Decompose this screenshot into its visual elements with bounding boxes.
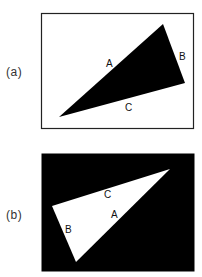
panel-b: (b) C A B: [6, 154, 194, 271]
figure: (a) A B C (b) C A B: [0, 0, 202, 277]
panel-b-edge-label-b: B: [65, 224, 72, 235]
panel-a-edge-label-a: A: [106, 58, 113, 69]
panel-b-edge-label-a: A: [111, 209, 118, 220]
triangle-figure: (a) A B C (b) C A B: [0, 0, 202, 277]
panel-a-label: (a): [6, 65, 22, 79]
panel-a: (a) A B C: [6, 14, 194, 129]
panel-b-edge-label-c: C: [104, 189, 111, 200]
panel-a-edge-label-c: C: [125, 102, 132, 113]
panel-a-edge-label-b: B: [179, 51, 186, 62]
panel-b-label: (b): [6, 208, 22, 222]
